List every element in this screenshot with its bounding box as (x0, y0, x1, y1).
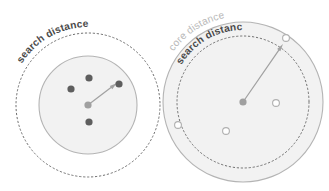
neighbour-point-hollow (175, 122, 182, 129)
left-panel: search distance (14, 18, 160, 177)
neighbour-point-hollow (273, 100, 280, 107)
neighbour-point (85, 118, 92, 125)
neighbour-point-hollow (223, 128, 230, 135)
neighbour-point (85, 74, 92, 81)
diagram-svg: search distance core distance search dis… (0, 0, 329, 191)
center-point (239, 98, 246, 105)
neighbour-point (67, 85, 74, 92)
core-point-hollow (283, 35, 290, 42)
center-point (84, 101, 91, 108)
diagram-canvas: search distance core distance search dis… (0, 0, 329, 191)
neighbour-point (115, 80, 122, 87)
